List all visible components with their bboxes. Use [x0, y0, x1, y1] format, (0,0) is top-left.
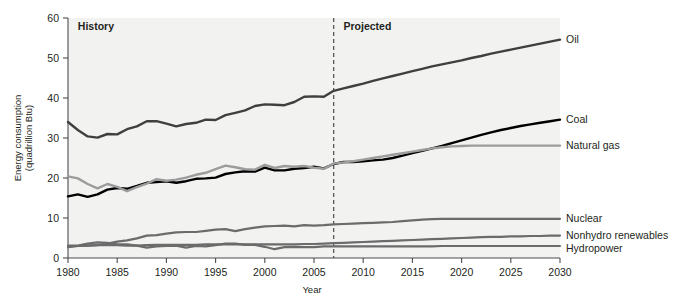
y-tick-label: 20	[47, 172, 59, 184]
x-tick-label: 2015	[401, 266, 425, 278]
y-tick-label: 0	[53, 252, 59, 264]
y-tick-label: 40	[47, 92, 59, 104]
series-label-natural-gas: Natural gas	[566, 139, 620, 151]
y-axis-title-line2: (quadrillion Btu)	[23, 105, 34, 172]
projected-label: Projected	[344, 20, 392, 32]
series-label-hydropower: Hydropower	[566, 242, 623, 254]
series-label-oil: Oil	[566, 33, 579, 45]
y-axis-title: Energy consumption (quadrillion Btu)	[12, 95, 34, 182]
y-tick-label: 60	[47, 12, 59, 24]
x-tick-label: 1990	[155, 266, 179, 278]
history-label: History	[78, 20, 114, 32]
series-label-nuclear: Nuclear	[566, 212, 603, 224]
x-axis-title: Year	[302, 284, 321, 295]
y-tick-label: 50	[47, 52, 59, 64]
y-tick-label: 10	[47, 212, 59, 224]
y-axis-title-line1: Energy consumption	[12, 95, 23, 182]
x-tick-label: 1980	[56, 266, 80, 278]
series-label-coal: Coal	[566, 113, 588, 125]
energy-consumption-chart: 0102030405060 19801985199019952000200520…	[0, 0, 680, 299]
x-tick-label: 1985	[106, 266, 130, 278]
x-tick-label: 2020	[450, 266, 474, 278]
y-tick-label: 30	[47, 132, 59, 144]
chart-svg: 0102030405060 19801985199019952000200520…	[0, 0, 680, 299]
x-tick-label: 2030	[548, 266, 572, 278]
x-tick-label: 2000	[253, 266, 277, 278]
x-tick-label: 1995	[204, 266, 228, 278]
x-tick-label: 2005	[302, 266, 326, 278]
x-tick-label: 2025	[499, 266, 523, 278]
series-label-nonhydro-renewables: Nonhydro renewables	[566, 229, 668, 241]
x-tick-label: 2010	[352, 266, 376, 278]
